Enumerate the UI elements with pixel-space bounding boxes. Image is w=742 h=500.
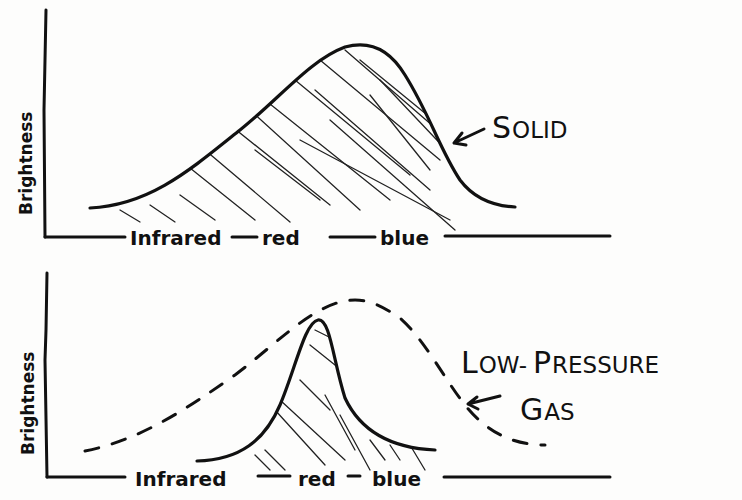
x-label-blue: blue bbox=[380, 226, 429, 250]
arrow-icon bbox=[468, 396, 500, 409]
panel-solid: Brightness Infrared red blue SOLID bbox=[16, 10, 610, 250]
x-label-infrared: Infrared bbox=[130, 226, 221, 250]
callout-gas-line1: LOW-PRESSURE bbox=[461, 345, 659, 380]
x-label-red: red bbox=[262, 226, 300, 250]
x-label-infrared: Infrared bbox=[135, 467, 226, 491]
y-axis-label: Brightness bbox=[16, 112, 36, 215]
callout-low-pressure-gas: LOW-PRESSURE GAS bbox=[461, 345, 659, 427]
callout-solid-label: SOLID bbox=[492, 110, 567, 145]
spectrum-diagram: Brightness Infrared red blue SOLID bbox=[0, 0, 742, 500]
callout-gas-line2: GAS bbox=[520, 392, 575, 427]
emission-line-curve bbox=[197, 320, 435, 461]
x-label-blue: blue bbox=[372, 467, 421, 491]
hatch-fill bbox=[120, 50, 470, 230]
y-axis bbox=[45, 273, 47, 477]
x-label-red: red bbox=[298, 467, 336, 491]
y-axis-label: Brightness bbox=[18, 352, 38, 455]
y-axis bbox=[44, 10, 46, 237]
panel-low-pressure-gas: Brightness Infrared red blue LOW-PRESSUR… bbox=[18, 273, 659, 491]
callout-solid: SOLID bbox=[454, 110, 567, 145]
arrow-icon bbox=[454, 129, 484, 145]
